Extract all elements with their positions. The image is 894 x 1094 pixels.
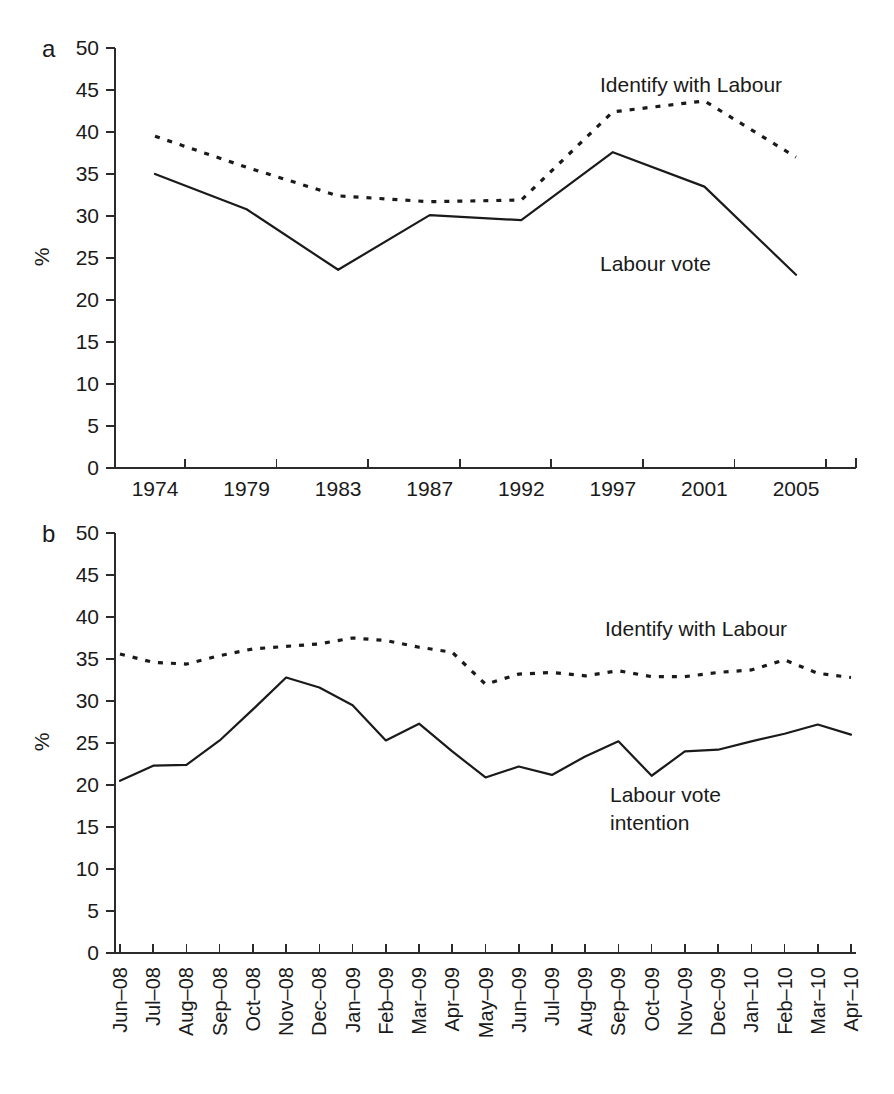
x-tick-label: May–09 [475,967,497,1038]
x-tick-label: Jul–08 [142,967,164,1026]
panel-a: 05101520253035404550 1974197919831987199… [0,0,894,520]
x-tick-label: Aug–08 [175,967,197,1036]
panel-a-annotation-vote: Labour vote [600,252,711,275]
x-tick-label: Jan–09 [342,967,364,1033]
panel-a-annotation-identify: Identify with Labour [600,73,782,96]
x-tick-label: Jun–09 [508,967,530,1033]
x-tick-label: 2001 [681,477,728,500]
panel-b-series-labour-vote-intention [120,677,851,780]
x-tick-label: Oct–09 [641,967,663,1031]
y-tick-label: 40 [76,120,99,143]
x-tick-label: Apr–10 [840,967,862,1032]
panel-b-series-identify-with-labour [120,638,851,684]
y-tick-label: 10 [76,857,99,880]
x-tick-label: Dec–09 [707,967,729,1036]
figure-root: 05101520253035404550 1974197919831987199… [0,0,894,1094]
y-tick-label: 40 [76,605,99,628]
panel-b-chart: 05101520253035404550 Jun–08Jul–08Aug–08S… [0,500,894,1094]
x-tick-label: 1974 [132,477,179,500]
panel-a-letter: a [42,35,56,62]
panel-a-y-axis: 05101520253035404550 [76,36,115,479]
panel-b-y-axis: 05101520253035404550 [76,521,115,964]
x-tick-label: 1992 [498,477,545,500]
y-tick-label: 35 [76,162,99,185]
x-tick-label: Feb–09 [375,967,397,1035]
panel-b-x-axis: Jun–08Jul–08Aug–08Sep–08Oct–08Nov–08Dec–… [109,944,862,1038]
y-tick-label: 25 [76,246,99,269]
y-tick-label: 20 [76,288,99,311]
panel-b-annotation-vote-line1: Labour vote [610,783,721,806]
y-tick-label: 30 [76,689,99,712]
x-tick-label: 1987 [406,477,453,500]
x-tick-label: Apr–09 [441,967,463,1032]
y-tick-label: 45 [76,78,99,101]
y-tick-label: 35 [76,647,99,670]
x-tick-label: Dec–08 [308,967,330,1036]
x-tick-label: Sep–08 [209,967,231,1036]
y-tick-label: 5 [87,899,99,922]
x-tick-label: 1983 [315,477,362,500]
panel-b-annotation-identify: Identify with Labour [605,617,787,640]
y-tick-label: 50 [76,36,99,59]
x-tick-label: Oct–08 [242,967,264,1031]
panel-b: 05101520253035404550 Jun–08Jul–08Aug–08S… [0,500,894,1094]
y-tick-label: 5 [87,414,99,437]
panel-a-series-identify-with-labour [155,101,796,202]
x-tick-label: 2005 [773,477,820,500]
x-tick-label: Jul–09 [541,967,563,1026]
y-tick-label: 15 [76,330,99,353]
x-tick-label: Sep–09 [607,967,629,1036]
x-tick-label: Nov–09 [674,967,696,1036]
x-tick-label: Feb–10 [774,967,796,1035]
y-tick-label: 45 [76,563,99,586]
panel-b-y-axis-title: % [30,733,53,752]
panel-a-chart: 05101520253035404550 1974197919831987199… [0,0,894,520]
y-tick-label: 50 [76,521,99,544]
y-tick-label: 20 [76,773,99,796]
x-tick-label: Aug–09 [574,967,596,1036]
panel-b-letter: b [42,520,55,547]
x-tick-label: 1997 [589,477,636,500]
y-tick-label: 0 [87,456,99,479]
x-tick-label: Jun–08 [109,967,131,1033]
y-tick-label: 0 [87,941,99,964]
panel-b-annotation-vote-line2: intention [610,811,689,834]
y-tick-label: 15 [76,815,99,838]
panel-a-x-axis: 19741979198319871992199720012005 [132,459,826,500]
x-tick-label: 1979 [223,477,270,500]
y-tick-label: 30 [76,204,99,227]
x-tick-label: Jan–10 [740,967,762,1033]
x-tick-label: Mar–10 [807,967,829,1035]
y-tick-label: 10 [76,372,99,395]
x-tick-label: Nov–08 [275,967,297,1036]
x-tick-label: Mar–09 [408,967,430,1035]
panel-a-y-axis-title: % [30,248,53,267]
y-tick-label: 25 [76,731,99,754]
